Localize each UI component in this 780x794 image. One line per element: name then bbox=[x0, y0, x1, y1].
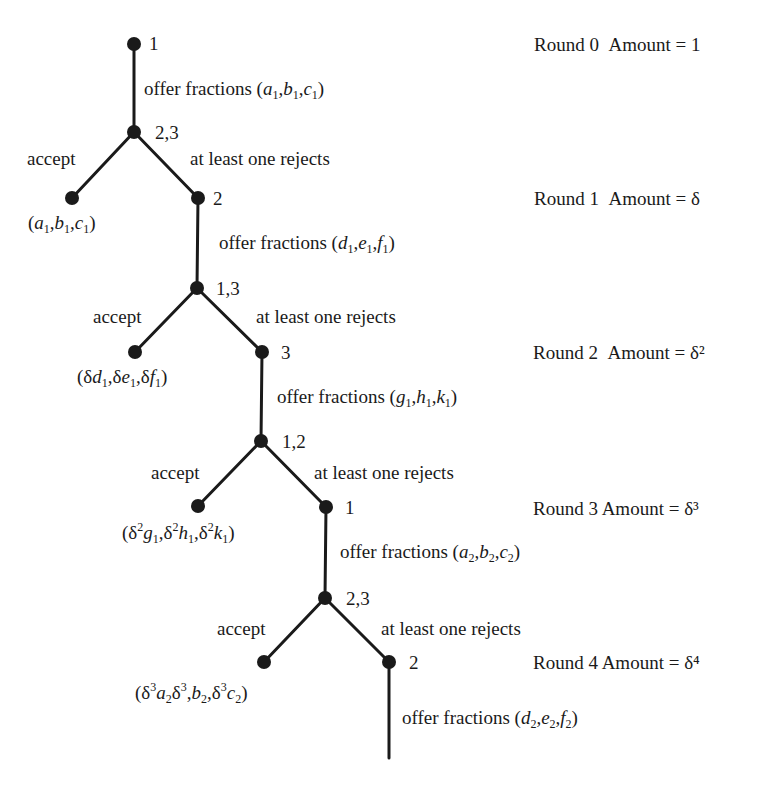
round-4-annotation: Round 4 Amount = δ⁴ bbox=[533, 652, 700, 674]
round-2-annotation: Round 2 Amount = δ² bbox=[533, 342, 705, 364]
reject-label-round0: at least one rejects bbox=[190, 148, 330, 170]
node-round0-proposer bbox=[127, 37, 141, 51]
node-round0-responders bbox=[127, 125, 141, 139]
edge-accept-round0 bbox=[72, 132, 134, 198]
node-round1-responders bbox=[190, 281, 204, 295]
leaf-accept-round2 bbox=[191, 499, 205, 513]
edge-offer-round2 bbox=[261, 352, 262, 441]
offer-label-round1: offer fractions (d1,e1,f1) bbox=[219, 232, 395, 254]
node-round3-responders bbox=[318, 591, 332, 605]
offer-label-round3: offer fractions (a2,b2,c2) bbox=[340, 541, 520, 563]
node-round1-proposer bbox=[191, 191, 205, 205]
accept-label-round0: accept bbox=[27, 148, 76, 170]
node-round3-proposer bbox=[319, 500, 333, 514]
leaf-accept-round3 bbox=[257, 655, 271, 669]
offer-label-round4: offer fractions (d2,e2,f2) bbox=[402, 707, 578, 729]
node-label: 2,3 bbox=[155, 122, 179, 144]
node-label: 1 bbox=[149, 33, 159, 55]
round-1-annotation: Round 1 Amount = δ bbox=[534, 188, 700, 210]
node-label: 2 bbox=[409, 652, 419, 674]
edge-accept-round1 bbox=[135, 288, 197, 352]
leaf-accept-round0 bbox=[65, 191, 79, 205]
round-3-annotation: Round 3 Amount = δ³ bbox=[533, 498, 699, 520]
edge-offer-round1 bbox=[197, 198, 198, 288]
node-label: 2 bbox=[213, 188, 223, 210]
payoff-round1: (δd1,δe1,δf1) bbox=[77, 366, 167, 388]
node-label: 1,3 bbox=[216, 278, 240, 300]
accept-label-round2: accept bbox=[151, 462, 200, 484]
edge-offer-round3 bbox=[325, 507, 326, 598]
node-label: 2,3 bbox=[346, 588, 370, 610]
node-round2-responders bbox=[254, 434, 268, 448]
node-label: 1 bbox=[345, 497, 355, 519]
node-round4-proposer bbox=[382, 655, 396, 669]
leaf-accept-round1 bbox=[128, 345, 142, 359]
round-0-annotation: Round 0 Amount = 1 bbox=[534, 34, 700, 56]
node-label: 1,2 bbox=[282, 431, 306, 453]
payoff-round3: (δ3a2δ3,b2,δ3c2) bbox=[135, 682, 247, 704]
edge-accept-round3 bbox=[264, 598, 325, 662]
node-label: 3 bbox=[281, 342, 291, 364]
offer-label-round0: offer fractions (a1,b1,c1) bbox=[144, 78, 324, 100]
edge-accept-round2 bbox=[198, 441, 261, 506]
offer-label-round2: offer fractions (g1,h1,k1) bbox=[277, 386, 457, 408]
reject-label-round1: at least one rejects bbox=[256, 306, 396, 328]
reject-label-round3: at least one rejects bbox=[381, 618, 521, 640]
accept-label-round1: accept bbox=[93, 306, 142, 328]
payoff-round2: (δ2g1,δ2h1,δ2k1) bbox=[122, 522, 234, 544]
node-round2-proposer bbox=[255, 345, 269, 359]
accept-label-round3: accept bbox=[217, 618, 266, 640]
reject-label-round2: at least one rejects bbox=[314, 462, 454, 484]
payoff-round0: (a1,b1,c1) bbox=[28, 212, 96, 234]
